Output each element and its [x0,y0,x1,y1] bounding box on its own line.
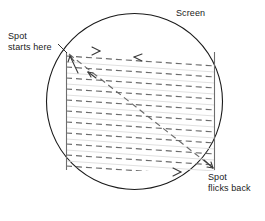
flyback-diagonal-line [69,54,212,167]
label-screen-text: Screen [176,8,205,19]
scan-line [66,144,215,154]
label-spot-flicks-back: Spot flicks back [208,172,251,194]
crt-raster-scan-figure: Screen Spot starts here Spot flicks back [0,0,265,221]
scan-line [66,133,215,143]
label-spot-start-line1: Spot [8,31,52,42]
scan-line [66,155,215,165]
flyback-start-arrowhead-icon [68,56,78,73]
scan-line [66,122,215,132]
scan-line [66,56,215,66]
label-spot-flicks-line1: Spot [208,172,251,183]
scan-direction-right-arrow-bottom-icon [173,168,181,176]
screen-outline-circle [47,14,223,190]
label-spot-flicks-line2: flicks back [208,183,251,194]
scan-direction-left-arrow-icon [134,54,142,61]
scan-line [66,89,215,99]
flyback-end-arrowhead-icon [204,160,213,168]
label-screen: Screen [176,8,205,19]
label-spot-start-line2: starts here [8,42,52,53]
label-spot-starts-here: Spot starts here [8,31,52,53]
scan-line [66,100,215,110]
scan-line [66,78,215,88]
raster-scan-lines [66,56,215,176]
scan-direction-right-arrow-top-icon [92,47,100,55]
scan-line [66,111,215,121]
